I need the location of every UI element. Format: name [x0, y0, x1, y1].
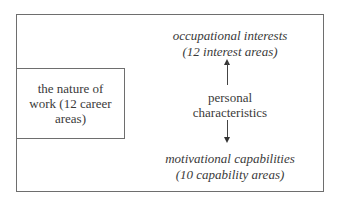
nature-of-work-line3: areas): [29, 111, 111, 126]
nature-of-work-line2: work (12 career: [29, 96, 111, 111]
arrow-up-line: [227, 62, 228, 85]
motivational-capabilities-node: motivational capabilities (10 capability…: [145, 151, 315, 183]
arrow-down-head-icon: [224, 137, 230, 143]
personal-characteristics-line2: characteristics: [170, 105, 290, 120]
occupational-interests-subtitle: (12 interest areas): [150, 44, 310, 60]
motivational-capabilities-title: motivational capabilities: [145, 151, 315, 167]
occupational-interests-title: occupational interests: [150, 28, 310, 44]
occupational-interests-node: occupational interests (12 interest area…: [150, 28, 310, 60]
personal-characteristics-line1: personal: [170, 90, 290, 105]
nature-of-work-box: the nature of work (12 career areas): [16, 68, 125, 139]
nature-of-work-line1: the nature of: [29, 81, 111, 96]
motivational-capabilities-subtitle: (10 capability areas): [145, 167, 315, 183]
personal-characteristics-node: personal characteristics: [170, 90, 290, 120]
